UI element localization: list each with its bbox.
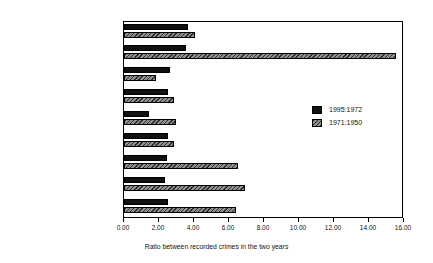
bar-1995-1972 <box>124 67 170 73</box>
x-tick <box>298 218 299 222</box>
bar-1995-1972 <box>124 155 167 161</box>
bar-1971-1950 <box>124 32 195 38</box>
category-group: Sexual assault <box>124 132 402 152</box>
category-group: Robbery <box>124 175 402 195</box>
legend-item: 1971:1950 <box>312 117 362 128</box>
bar-1971-1950 <box>124 141 174 147</box>
x-tick-label: 16.00 <box>383 224 423 231</box>
x-tick-label: 14.00 <box>348 224 388 231</box>
x-tick-label: 8.00 <box>243 224 283 231</box>
bar-1971-1950 <box>124 163 238 169</box>
bar-1971-1950 <box>124 119 176 125</box>
category-group: Serious assault <box>124 197 402 217</box>
x-axis-title: Ratio between recorded crimes in the two… <box>0 243 433 250</box>
category-group: Fire-raising <box>124 44 402 64</box>
x-tick <box>228 218 229 222</box>
bar-1995-1972 <box>124 111 149 117</box>
x-tick <box>158 218 159 222</box>
x-tick-label: 10.00 <box>278 224 318 231</box>
x-tick-label: 6.00 <box>208 224 248 231</box>
x-tick-label: 4.00 <box>173 224 213 231</box>
bar-1971-1950 <box>124 75 156 81</box>
bar-1971-1950 <box>124 207 236 213</box>
bar-1995-1972 <box>124 199 168 205</box>
category-group: Fraud <box>124 66 402 86</box>
plot-area: Vandalism etc. Fire-raising Fraud Theft … <box>123 21 403 218</box>
x-tick-label: 0.00 <box>103 224 143 231</box>
x-tick <box>193 218 194 222</box>
legend-swatch-1995-1972 <box>312 106 322 114</box>
x-tick-label: 12.00 <box>313 224 353 231</box>
bar-1995-1972 <box>124 177 165 183</box>
legend-label: 1995:1972 <box>329 106 362 113</box>
bar-1995-1972 <box>124 89 168 95</box>
x-tick <box>263 218 264 222</box>
legend-item: 1995:1972 <box>312 104 362 115</box>
x-tick <box>123 218 124 222</box>
x-tick <box>333 218 334 222</box>
bar-1995-1972 <box>124 45 186 51</box>
x-tick <box>368 218 369 222</box>
x-tick-label: 2.00 <box>138 224 178 231</box>
category-group: Vandalism etc. <box>124 22 402 42</box>
legend-swatch-1971-1950 <box>312 119 322 127</box>
legend: 1995:1972 1971:1950 <box>312 104 362 130</box>
bar-1995-1972 <box>124 24 188 30</box>
bar-1971-1950 <box>124 53 396 59</box>
x-tick <box>403 218 404 222</box>
bar-1995-1972 <box>124 133 168 139</box>
bar-1971-1950 <box>124 185 245 191</box>
bar-1971-1950 <box>124 97 174 103</box>
bar-chart: Vandalism etc. Fire-raising Fraud Theft … <box>0 0 433 263</box>
category-group: Other violence and handling offensive we… <box>124 153 402 173</box>
legend-label: 1971:1950 <box>329 119 362 126</box>
